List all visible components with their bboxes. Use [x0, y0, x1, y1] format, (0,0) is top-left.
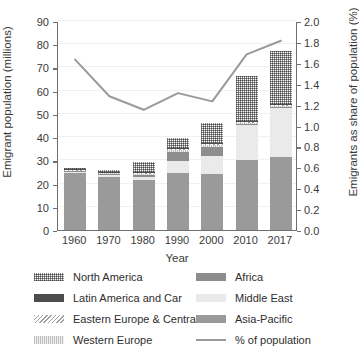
- y-axis-left-tick-label: 20: [9, 180, 49, 191]
- plot-area-wrapper: Emigrant population (millions) Emigrants…: [0, 0, 358, 262]
- y-axis-right-tick-label: 0.8: [304, 142, 338, 153]
- y-axis-right-tick-mark: [297, 210, 301, 211]
- bar-segment-africa: [64, 171, 86, 172]
- y-axis-right-tick-mark: [297, 168, 301, 169]
- bar-segment-noram: [236, 76, 258, 121]
- bar-segment-africa: [167, 152, 189, 162]
- bar-segment-noram: [64, 168, 86, 170]
- bar-segment-mideast: [236, 124, 258, 160]
- bar-segment-weur: [167, 150, 189, 151]
- bar-segment-africa: [201, 147, 223, 156]
- legend-item[interactable]: Middle East: [196, 287, 311, 308]
- bar-1990: [167, 138, 189, 230]
- y-axis-right-tick-mark: [297, 127, 301, 128]
- bar-segment-mideast: [167, 161, 189, 173]
- bar-segment-mideast: [98, 175, 120, 176]
- legend-item[interactable]: % of population: [196, 329, 311, 350]
- y-axis-left-tick-label: 60: [9, 87, 49, 98]
- y-axis-right-tick-label: 1.0: [304, 122, 338, 133]
- legend-item-label: Western Europe: [73, 334, 152, 346]
- y-axis-right-tick-mark: [297, 43, 301, 44]
- legend-swatch-mideast-icon: [196, 294, 226, 302]
- legend-swatch-line-icon: [196, 336, 226, 344]
- legend-item[interactable]: Latin America and Car: [34, 287, 222, 308]
- y-axis-right-tick-mark: [297, 22, 301, 23]
- bar-segment-asia: [201, 174, 223, 230]
- legend-item-label: % of population: [235, 334, 311, 346]
- legend-swatch-noram-icon: [34, 273, 64, 281]
- legend-swatch-asia-icon: [196, 315, 226, 323]
- legend-item-label: North America: [73, 271, 143, 283]
- bar-segment-weur: [270, 106, 292, 107]
- legend-column-left: North AmericaLatin America and CarEaster…: [34, 266, 222, 350]
- y-axis-right-tick-label: 1.6: [304, 59, 338, 70]
- legend-item[interactable]: North America: [34, 266, 222, 287]
- y-axis-left-tick-label: 40: [9, 133, 49, 144]
- y-axis-right-title: Emigrants as share of population (%): [347, 0, 359, 217]
- bar-segment-mideast: [133, 177, 155, 180]
- y-axis-left-tick-label: 30: [9, 156, 49, 167]
- bar-segment-asia: [98, 177, 120, 230]
- y-axis-left-tick-label: 50: [9, 110, 49, 121]
- y-axis-right-tick-mark: [297, 231, 301, 232]
- bar-segment-asia: [133, 180, 155, 230]
- legend-item[interactable]: Africa: [196, 266, 311, 287]
- y-axis-left-tick-mark: [53, 231, 57, 232]
- y-axis-left-tick-label: 10: [9, 203, 49, 214]
- bar-segment-latam: [133, 172, 155, 173]
- bar-segment-mideast: [201, 156, 223, 174]
- bar-segment-noram: [98, 170, 120, 172]
- bar-segment-eeur: [133, 173, 155, 174]
- bar-segment-mideast: [64, 172, 86, 173]
- bar-segment-noram: [201, 123, 223, 144]
- bar-segment-asia: [64, 173, 86, 230]
- bar-1960: [64, 168, 86, 230]
- bar-1970: [98, 170, 120, 230]
- y-axis-right-tick-label: 1.4: [304, 80, 338, 91]
- y-axis-right-tick-label: 0.4: [304, 184, 338, 195]
- legend-item-label: Latin America and Car: [73, 292, 182, 304]
- bar-segment-asia: [167, 173, 189, 230]
- y-axis-left-tick-label: 70: [9, 63, 49, 74]
- bar-segment-weur: [64, 171, 86, 172]
- y-axis-left-tick-label: 0: [9, 226, 49, 237]
- gridline: [58, 20, 296, 21]
- x-axis-title: Year: [57, 252, 297, 264]
- bar-segment-asia: [270, 157, 292, 230]
- y-axis-left-tick-label: 90: [9, 17, 49, 28]
- bar-series-group: [58, 22, 296, 230]
- bar-segment-eeur: [98, 173, 120, 174]
- y-axis-right-tick-label: 2.0: [304, 17, 338, 28]
- bar-2017: [270, 51, 292, 230]
- bar-segment-africa: [133, 175, 155, 177]
- legend-column-right: AfricaMiddle EastAsia-Pacific% of popula…: [196, 266, 311, 350]
- bar-segment-latam: [201, 143, 223, 144]
- bar-1980: [133, 162, 155, 230]
- legend-item[interactable]: Western Europe: [34, 329, 222, 350]
- bar-segment-weur: [201, 145, 223, 146]
- bar-2010: [236, 76, 258, 230]
- bar-segment-noram: [270, 51, 292, 104]
- legend-item-label: Asia-Pacific: [235, 313, 292, 325]
- legend-swatch-eeur-icon: [34, 315, 64, 323]
- bar-segment-mideast: [270, 108, 292, 157]
- legend-item[interactable]: Asia-Pacific: [196, 308, 311, 329]
- y-axis-right-tick-label: 0.6: [304, 163, 338, 174]
- y-axis-right-tick-mark: [297, 85, 301, 86]
- bar-segment-weur: [98, 173, 120, 174]
- legend-swatch-africa-icon: [196, 273, 226, 281]
- bar-segment-eeur: [64, 170, 86, 171]
- bar-2000: [201, 122, 223, 230]
- chart-legend: North AmericaLatin America and CarEaster…: [0, 266, 358, 354]
- bar-segment-noram: [167, 138, 189, 149]
- y-axis-right-tick-mark: [297, 64, 301, 65]
- bar-segment-latam: [167, 148, 189, 149]
- bar-segment-latam: [270, 104, 292, 105]
- bar-segment-eeur: [167, 149, 189, 150]
- legend-swatch-latam-icon: [34, 294, 64, 302]
- y-axis-left-tick-label: 80: [9, 40, 49, 51]
- legend-item-label: Africa: [235, 271, 263, 283]
- bar-segment-noram: [133, 162, 155, 172]
- legend-item[interactable]: Eastern Europe & Central Asia: [34, 308, 222, 329]
